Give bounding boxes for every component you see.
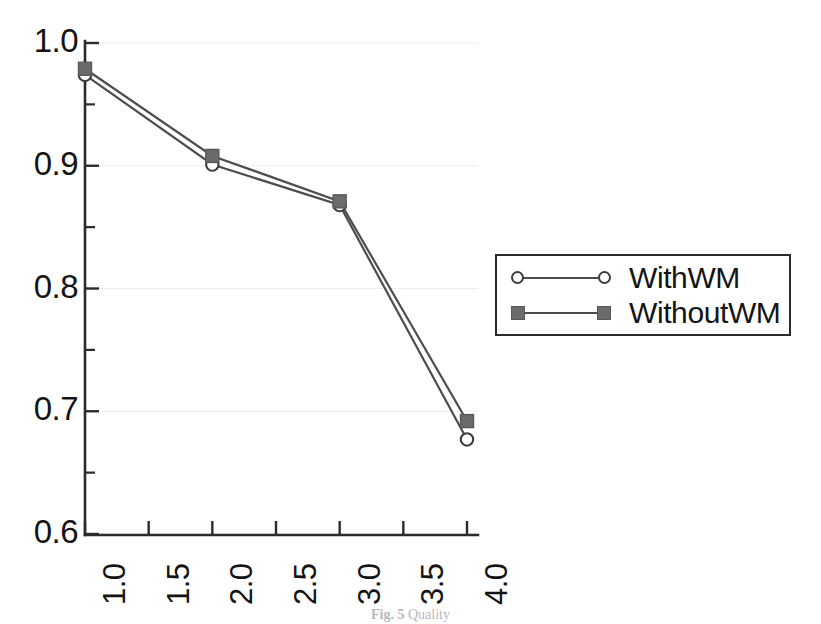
marker-filled-square <box>461 415 474 428</box>
chart-legend: WithWM WithoutWM <box>495 254 791 336</box>
marker-filled-square <box>333 195 346 208</box>
marker-filled-square <box>206 149 219 162</box>
y-tick-label: 0.7 <box>0 390 78 428</box>
x-tick-label: 4.0 <box>479 563 515 605</box>
legend-label-withoutwm: WithoutWM <box>629 298 780 328</box>
open-circle-icon <box>598 271 611 284</box>
y-tick-label: 1.0 <box>0 22 78 60</box>
caption-prefix: Fig. 5 <box>371 607 404 622</box>
x-tick-label: 1.5 <box>161 563 197 605</box>
legend-sample-filled-square-icon <box>509 300 613 326</box>
filled-square-icon <box>511 306 525 320</box>
x-tick-label: 1.0 <box>97 563 133 605</box>
marker-filled-square <box>79 62 92 75</box>
data-series <box>79 62 474 445</box>
legend-item-withoutwm[interactable]: WithoutWM <box>509 296 780 330</box>
legend-item-withwm[interactable]: WithWM <box>509 261 740 295</box>
caption-text: Quality <box>408 607 450 622</box>
marker-open-circle <box>461 433 473 445</box>
legend-line <box>518 277 604 279</box>
x-tick-label: 2.5 <box>288 563 324 605</box>
x-tick-label: 3.5 <box>415 563 451 605</box>
x-tick-label: 2.0 <box>224 563 260 605</box>
series-line-withoutwm <box>85 69 467 421</box>
open-circle-icon <box>511 271 524 284</box>
filled-square-icon <box>597 306 611 320</box>
x-tick-label: 3.0 <box>352 563 388 605</box>
y-tick-label: 0.8 <box>0 268 78 306</box>
legend-line <box>518 312 604 314</box>
figure-root: 1.00.90.80.70.6 1.01.52.02.53.03.54.0 Wi… <box>0 0 821 624</box>
legend-label-withwm: WithWM <box>629 263 740 293</box>
y-tick-label: 0.9 <box>0 145 78 183</box>
figure-caption: Fig. 5 Quality <box>0 607 821 623</box>
legend-sample-open-circle-icon <box>509 265 613 291</box>
y-tick-label: 0.6 <box>0 513 78 551</box>
series-line-withwm <box>85 75 467 440</box>
